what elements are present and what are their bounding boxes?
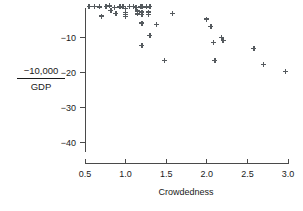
y-axis-title-denominator: GDP [31, 81, 52, 92]
x-tick-label: 3.0 [282, 169, 295, 179]
x-tick-label: 0.5 [79, 169, 92, 179]
x-tick-label: 2.5 [241, 169, 254, 179]
data-point [208, 24, 213, 29]
y-axis: −10−20−30−40 [61, 8, 86, 152]
data-point [212, 58, 217, 63]
scatter-plot-figure: −10−20−30−40 0.51.01.52.02.53.0 Crowdedn… [0, 0, 303, 211]
data-point [251, 46, 256, 51]
y-tick-label: −30 [61, 103, 76, 113]
data-point [283, 69, 288, 74]
y-axis-title-numerator: −10,000 [24, 65, 59, 76]
data-point [131, 4, 136, 9]
data-point [154, 22, 159, 27]
data-point [113, 11, 118, 16]
data-point [92, 4, 97, 9]
data-point [261, 62, 266, 67]
data-point [162, 58, 167, 63]
data-point [147, 33, 152, 38]
data-point [204, 17, 209, 22]
data-point [139, 43, 144, 48]
data-point [170, 11, 175, 16]
data-point [97, 4, 102, 9]
y-tick-label: −20 [61, 68, 76, 78]
y-tick-label: −40 [61, 138, 76, 148]
x-axis: 0.51.01.52.02.53.0 [79, 159, 295, 179]
data-point [87, 4, 92, 9]
data-point [99, 14, 104, 19]
data-point [146, 12, 151, 17]
data-point [117, 4, 122, 9]
chart-canvas: −10−20−30−40 0.51.01.52.02.53.0 Crowdedn… [0, 0, 303, 211]
data-point [211, 40, 216, 45]
data-point [107, 3, 112, 8]
x-tick-label: 1.0 [119, 169, 132, 179]
data-point [112, 5, 117, 10]
x-tick-label: 2.0 [201, 169, 214, 179]
x-tick-label: 1.5 [160, 169, 173, 179]
data-point [139, 21, 144, 26]
data-points-layer [87, 3, 289, 73]
data-point [104, 4, 109, 9]
y-tick-label: −10 [61, 33, 76, 43]
data-point [108, 8, 113, 13]
x-axis-title: Crowdedness [158, 187, 214, 197]
data-point [147, 4, 152, 9]
